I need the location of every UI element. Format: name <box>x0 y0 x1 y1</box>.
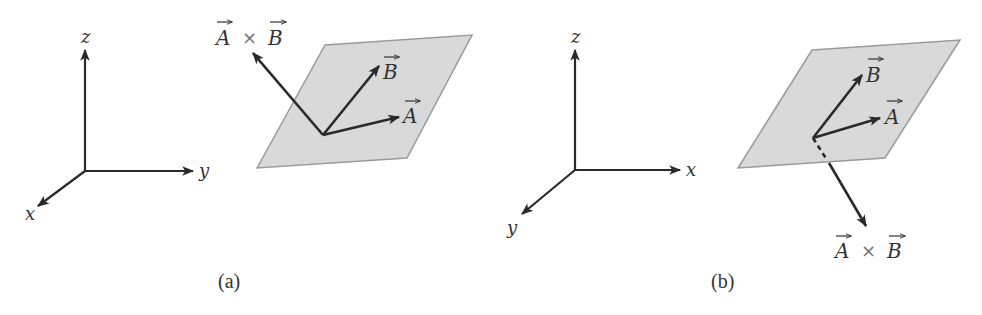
cross-symbol: × <box>242 27 257 48</box>
svg-text:A: A <box>401 104 417 128</box>
svg-text:B: B <box>865 63 881 87</box>
cross-product-label: A × B <box>833 236 905 263</box>
plane-b <box>738 40 960 168</box>
panel-a: z y x B A A × B (a) <box>25 22 472 293</box>
z-axis-label: z <box>570 26 581 47</box>
y-axis <box>522 170 575 214</box>
axes-b: z x y <box>506 26 696 238</box>
vector-b-label: B <box>382 57 399 84</box>
vector-a-label: A <box>883 101 902 129</box>
cross-product-diagram: z y x B A A × B (a) <box>0 0 982 315</box>
x-axis <box>38 171 85 206</box>
cross-symbol: × <box>861 240 876 261</box>
y-axis-label: y <box>506 217 518 238</box>
cross-product-label: A × B <box>214 22 286 50</box>
plane-a <box>257 35 472 168</box>
caption-a: (a) <box>218 270 240 293</box>
vector-a-label: A <box>401 101 420 128</box>
cross-product-arrow <box>829 163 866 226</box>
svg-text:A: A <box>883 105 899 129</box>
svg-text:B: B <box>382 60 398 84</box>
z-axis-label: z <box>80 26 91 47</box>
axes-a: z y x <box>25 26 210 224</box>
caption-b: (b) <box>711 270 734 293</box>
vector-b-label: B <box>865 59 883 87</box>
svg-text:A: A <box>833 239 849 263</box>
svg-text:B: B <box>267 26 283 50</box>
panel-b: z x y B A A × B (b) <box>506 26 960 293</box>
y-axis-label: y <box>198 160 210 181</box>
x-axis-label: x <box>25 203 35 224</box>
x-axis-label: x <box>686 159 696 180</box>
svg-text:A: A <box>214 26 230 50</box>
svg-text:B: B <box>886 239 902 263</box>
